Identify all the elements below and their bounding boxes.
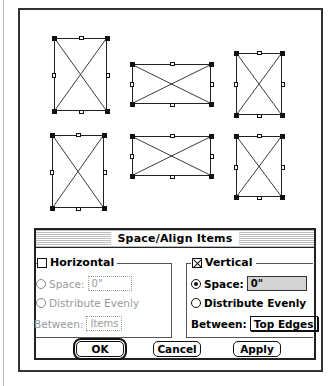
placeholder-shape[interactable] [236,53,282,115]
corner-handle[interactable] [234,195,239,200]
vertical-checkbox[interactable] [192,258,202,268]
x-cross-icon [133,65,210,103]
edge-handle[interactable] [130,82,134,87]
corner-handle[interactable] [234,113,239,118]
edge-handle[interactable] [79,110,84,114]
corner-handle[interactable] [52,36,57,41]
horizontal-space-field[interactable]: 0" [88,276,132,291]
vertical-space-radio[interactable] [191,279,201,289]
horizontal-between-label: Between: [34,318,83,330]
corner-handle[interactable] [130,134,135,139]
edge-handle[interactable] [170,62,175,66]
x-cross-icon [53,136,103,207]
space-align-dialog: Space/Align Items Horizontal Space: 0" D… [34,228,316,360]
corner-handle[interactable] [52,109,57,114]
edge-handle[interactable] [234,165,238,170]
x-cross-icon [237,54,281,114]
corner-handle[interactable] [130,174,135,179]
corner-handle[interactable] [280,51,285,56]
placeholder-shape[interactable] [236,136,282,197]
apply-button[interactable]: Apply [233,341,281,357]
edge-handle[interactable] [210,154,214,159]
edge-handle[interactable] [170,103,175,107]
edge-handle[interactable] [50,170,54,175]
vertical-distribute-radio[interactable] [191,298,201,308]
corner-handle[interactable] [130,102,135,107]
corner-handle[interactable] [280,195,285,200]
edge-handle[interactable] [234,82,238,87]
edge-handle[interactable] [281,82,285,87]
horizontal-between-popup[interactable]: Items [86,316,122,331]
corner-handle[interactable] [50,133,55,138]
vertical-label: Vertical [205,256,253,269]
corner-handle[interactable] [209,62,214,67]
window-edge [3,0,4,386]
edge-handle[interactable] [76,207,81,211]
horizontal-checkbox[interactable] [37,258,47,268]
horizontal-distribute-radio[interactable] [36,298,46,308]
vertical-between-popup[interactable]: Top Edges [250,316,318,331]
placeholder-shape[interactable] [132,64,211,104]
placeholder-shape[interactable] [52,135,104,208]
vertical-group: Vertical Space: 0" Distribute Evenly Bet… [186,263,313,338]
x-cross-icon [237,137,281,196]
placeholder-shape[interactable] [54,38,107,111]
corner-handle[interactable] [209,134,214,139]
vertical-space-field[interactable]: 0" [247,276,307,291]
horizontal-label: Horizontal [50,256,114,269]
edge-handle[interactable] [76,133,81,137]
corner-handle[interactable] [130,62,135,67]
vertical-between-label: Between: [191,318,247,330]
vertical-distribute-label: Distribute Evenly [204,297,306,309]
corner-handle[interactable] [102,206,107,211]
corner-handle[interactable] [105,109,110,114]
edge-handle[interactable] [79,36,84,40]
edge-handle[interactable] [170,175,175,179]
placeholder-shape[interactable] [132,136,211,176]
edge-handle[interactable] [257,134,262,138]
corner-handle[interactable] [280,113,285,118]
corner-handle[interactable] [105,36,110,41]
corner-handle[interactable] [50,206,55,211]
horizontal-space-label: Space: [49,278,85,290]
edge-handle[interactable] [257,196,262,200]
edge-handle[interactable] [170,134,175,138]
edge-handle[interactable] [130,154,134,159]
dialog-title-bar[interactable]: Space/Align Items [36,230,314,248]
corner-handle[interactable] [234,134,239,139]
vertical-space-label: Space: [204,278,244,290]
corner-handle[interactable] [209,174,214,179]
corner-handle[interactable] [102,133,107,138]
x-cross-icon [55,39,106,110]
cancel-button[interactable]: Cancel [153,341,201,357]
ok-button[interactable]: OK [76,341,124,357]
edge-handle[interactable] [52,73,56,78]
edge-handle[interactable] [210,82,214,87]
edge-handle[interactable] [281,165,285,170]
edge-handle[interactable] [103,170,107,175]
corner-handle[interactable] [209,102,214,107]
edge-handle[interactable] [257,114,262,118]
corner-handle[interactable] [234,51,239,56]
dialog-title: Space/Align Items [111,232,238,245]
horizontal-group: Horizontal Space: 0" Distribute Evenly B… [36,263,172,338]
corner-handle[interactable] [280,134,285,139]
edge-handle[interactable] [257,51,262,55]
x-cross-icon [133,137,210,175]
edge-handle[interactable] [106,73,110,78]
horizontal-distribute-label: Distribute Evenly [49,297,139,309]
horizontal-space-radio[interactable] [36,279,46,289]
